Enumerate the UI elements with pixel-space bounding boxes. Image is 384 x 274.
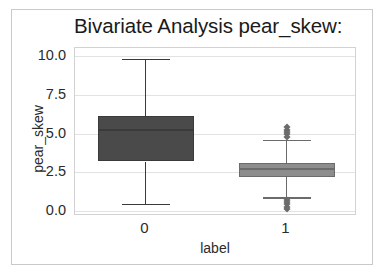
upper-whisker [286,140,288,163]
y-tick-label: 5.0 [6,125,66,141]
outlier-point [283,205,290,212]
median-line [239,168,335,170]
plot-area [74,47,356,215]
lower-whisker [286,177,288,197]
y-tick-label: 2.5 [6,163,66,179]
y-tick-label: 7.5 [6,86,66,102]
y-tick-label: 10.0 [6,47,66,63]
box-plot-1 [75,48,356,214]
chart-title: Bivariate Analysis pear_skew: [74,12,356,40]
chart-figure: Bivariate Analysis pear_skew: pear_skew … [0,0,384,274]
y-tick-label: 0.0 [6,202,66,218]
box-iqr [239,163,335,177]
x-tick-label: 1 [256,219,316,236]
x-tick-label: 0 [115,219,175,236]
x-axis-label: label [74,240,356,256]
